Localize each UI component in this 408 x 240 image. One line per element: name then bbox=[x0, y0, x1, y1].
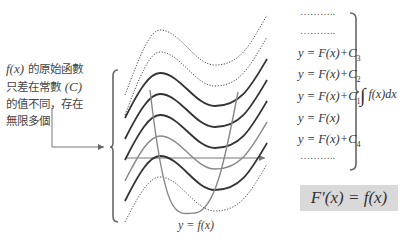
curve-c1 bbox=[125, 101, 267, 160]
curve-label-f: y = F(x) bbox=[298, 111, 340, 126]
curve-c3 bbox=[125, 59, 267, 118]
ellipsis-label: ……….. bbox=[300, 25, 335, 36]
derivative-formula-box: F′(x) = f(x) bbox=[300, 185, 398, 211]
note-line-4: 無限多個 bbox=[6, 113, 106, 130]
curve-fx-parabola bbox=[150, 90, 238, 214]
note-line-3: 的值不同，存在 bbox=[6, 96, 106, 113]
note-line-1: f(x) 的原始函數 bbox=[6, 60, 106, 78]
curve-c4 bbox=[125, 143, 267, 201]
curve-label-c2: y = F(x)+C2 bbox=[298, 67, 361, 84]
left-brace bbox=[110, 70, 118, 222]
curve-label-c4: y = F(x)+C4 bbox=[298, 132, 361, 149]
curve-label-c1: y = F(x)+C1 bbox=[298, 89, 361, 106]
indefinite-integral: ∫ f(x)dx bbox=[360, 84, 396, 107]
curve-f bbox=[125, 122, 267, 181]
curve-family bbox=[125, 15, 267, 222]
note-text: f(x) 的原始函數 只差在常數 (C) 的值不同，存在 無限多個 bbox=[6, 60, 106, 130]
curve-label-c3: y = F(x)+C3 bbox=[298, 46, 361, 63]
ellipsis-label: ……….. bbox=[300, 6, 335, 17]
curve-c2 bbox=[125, 80, 267, 139]
note-line-2: 只差在常數 (C) bbox=[6, 78, 106, 96]
ellipsis-label: ……….. bbox=[300, 150, 335, 161]
fx-curve-label: y = f(x) bbox=[178, 218, 214, 233]
